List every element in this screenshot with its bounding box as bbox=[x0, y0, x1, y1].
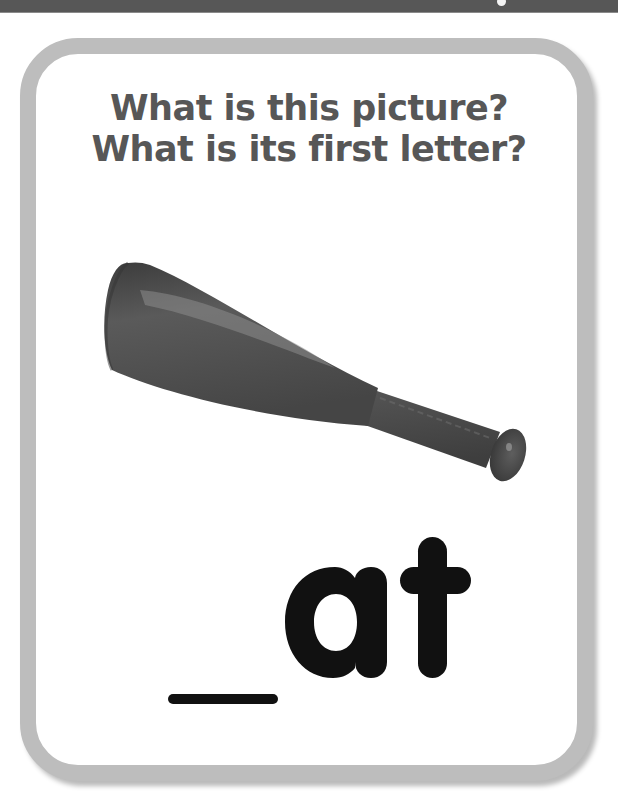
letter-blank bbox=[168, 694, 278, 704]
card-artwork bbox=[0, 0, 618, 803]
baseball-bat-icon bbox=[104, 262, 532, 486]
letter-a bbox=[285, 567, 387, 678]
word-display bbox=[168, 537, 471, 704]
letter-t bbox=[400, 537, 471, 678]
